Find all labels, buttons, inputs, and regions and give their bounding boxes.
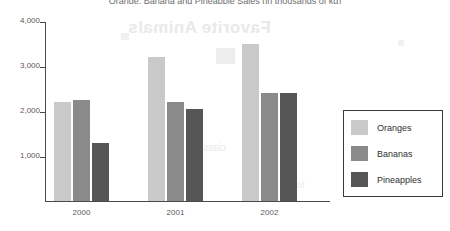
x-tick-label-2001: 2001 [146,208,206,217]
bar-pineapples-2001 [186,109,203,201]
y-tick-1000: 1,000 [45,157,46,158]
bar-oranges-2001 [148,57,165,201]
legend-item-oranges[interactable]: Oranges [351,120,412,135]
y-tick-3000: 3,000 [45,67,46,68]
plot-area: 1,0002,0003,0004,000 200020012002 [45,22,330,202]
legend-label: Oranges [377,123,412,133]
bar-chart: Favorite Animals classic forest Orange, … [0,0,450,231]
y-tick-label: 2,000 [20,106,40,115]
x-axis-line [45,201,330,202]
bar-bananas-2002 [261,93,278,201]
bar-pineapples-2002 [280,93,297,201]
y-tick-label: 1,000 [20,151,40,160]
legend-swatch-pineapples [351,172,368,187]
y-tick-mark [40,67,45,68]
legend-item-pineapples[interactable]: Pineapples [351,172,422,187]
y-tick-4000: 4,000 [45,22,46,23]
legend: OrangesBananasPineapples [343,110,443,197]
bar-bananas-2001 [167,102,184,201]
bar-oranges-2000 [54,102,71,201]
y-tick-2000: 2,000 [45,112,46,113]
bleed-through-speck-b [398,40,404,46]
bar-pineapples-2000 [92,143,109,202]
bar-oranges-2002 [242,44,259,202]
y-tick-label: 3,000 [20,61,40,70]
legend-label: Bananas [377,149,413,159]
bar-bananas-2000 [73,100,90,201]
legend-item-bananas[interactable]: Bananas [351,146,413,161]
x-tick-label-2002: 2002 [240,208,300,217]
y-tick-mark [40,22,45,23]
x-tick-label-2000: 2000 [52,208,112,217]
legend-label: Pineapples [377,175,422,185]
chart-title: Orange, Banana and Pineapple Sales (in t… [0,0,450,4]
y-tick-label: 4,000 [20,16,40,25]
y-tick-mark [40,157,45,158]
legend-swatch-oranges [351,120,368,135]
y-tick-mark [40,112,45,113]
legend-swatch-bananas [351,146,368,161]
